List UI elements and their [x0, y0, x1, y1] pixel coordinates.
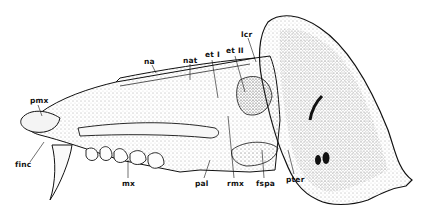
label-mx: mx [122, 180, 135, 188]
canine-tooth [50, 145, 72, 200]
label-rmx: rmx [227, 180, 244, 188]
label-et-ii: et II [226, 47, 244, 55]
label-nat: nat [183, 57, 198, 65]
label-pter: pter [286, 176, 305, 184]
label-lcr: lcr [241, 31, 252, 39]
label-fspa: fspa [256, 180, 275, 188]
label-et-i: et I [205, 51, 220, 59]
label-finc: finc [15, 161, 31, 169]
label-pal: pal [195, 180, 209, 188]
skull-illustration [0, 0, 428, 220]
label-na: na [144, 58, 155, 66]
label-pmx: pmx [30, 97, 49, 105]
